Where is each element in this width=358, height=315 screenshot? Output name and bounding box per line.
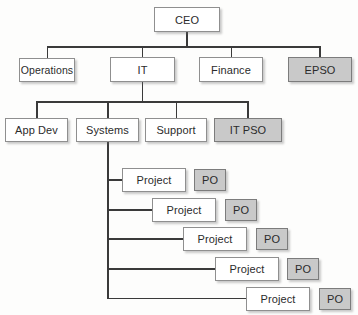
node-support-label: Support <box>156 124 195 136</box>
node-project-2-label: Project <box>167 204 202 216</box>
node-project-5-label: Project <box>261 293 296 305</box>
node-project-1: Project <box>122 168 186 192</box>
connector-level2-bus <box>47 46 321 48</box>
node-support: Support <box>145 118 207 142</box>
node-it-pso: IT PSO <box>214 118 282 142</box>
node-po-2: PO <box>225 199 257 221</box>
connector-project-4-branch <box>107 268 216 270</box>
node-po-1: PO <box>194 169 226 191</box>
connector-support-stub <box>176 101 178 119</box>
node-operations-label: Operations <box>21 64 73 76</box>
node-ceo: CEO <box>154 7 220 32</box>
connector-appdev-stub <box>36 101 38 119</box>
node-it-label: IT <box>138 64 148 76</box>
node-project-5: Project <box>246 287 310 311</box>
node-finance-label: Finance <box>211 64 251 76</box>
node-epso-label: EPSO <box>305 64 336 76</box>
node-po-3-label: PO <box>264 233 280 245</box>
node-it-pso-label: IT PSO <box>230 124 266 136</box>
node-ceo-label: CEO <box>175 14 199 26</box>
node-it: IT <box>110 57 175 82</box>
node-po-5-label: PO <box>327 293 343 305</box>
node-systems: Systems <box>76 118 139 142</box>
node-project-3: Project <box>183 227 247 251</box>
connector-systems-trunk <box>107 142 109 299</box>
connector-project-5-branch <box>107 298 247 300</box>
node-project-4-label: Project <box>230 263 265 275</box>
node-epso: EPSO <box>288 57 352 82</box>
connector-level3-bus <box>36 101 248 103</box>
node-project-4: Project <box>215 257 279 281</box>
node-po-2-label: PO <box>233 204 249 216</box>
connector-it-down <box>142 82 144 102</box>
connector-project-1-branch <box>107 179 123 181</box>
node-systems-label: Systems <box>86 124 129 136</box>
node-project-2: Project <box>152 198 216 222</box>
node-po-1-label: PO <box>202 174 218 186</box>
connector-ceo-down <box>186 32 188 47</box>
node-operations: Operations <box>19 58 75 82</box>
connector-itpso-stub <box>247 101 249 119</box>
connector-project-2-branch <box>107 209 153 211</box>
node-app-dev: App Dev <box>5 118 68 142</box>
node-finance: Finance <box>199 57 263 82</box>
connector-systems-stub <box>107 101 109 119</box>
org-chart-diagram: CEO Operations IT Finance EPSO App Dev S… <box>0 0 358 315</box>
node-app-dev-label: App Dev <box>15 124 58 136</box>
node-po-5: PO <box>319 288 351 310</box>
node-project-1-label: Project <box>137 174 172 186</box>
node-project-3-label: Project <box>198 233 233 245</box>
node-po-3: PO <box>256 228 288 250</box>
node-po-4: PO <box>287 258 319 280</box>
connector-operations-stub <box>47 46 49 58</box>
connector-project-3-branch <box>107 238 184 240</box>
node-po-4-label: PO <box>295 263 311 275</box>
